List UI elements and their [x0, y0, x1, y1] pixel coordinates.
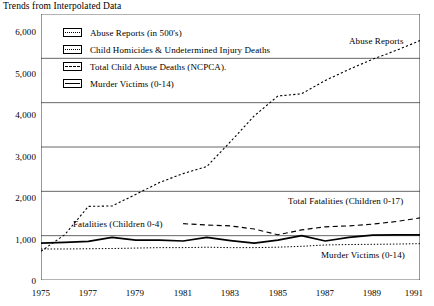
y-tick-label-3000: 3,000	[0, 152, 36, 162]
dotted-line-swatch-icon	[63, 45, 82, 54]
x-tick-label-1983: 1983	[210, 288, 250, 298]
y-tick-label-1000: 1,000	[0, 235, 36, 245]
x-tick-label-1979: 1979	[115, 288, 155, 298]
chart-title: Trends from Interpolated Data	[3, 0, 121, 12]
legend-label: Total Child Abuse Deaths (NCPCA).	[90, 62, 226, 72]
x-tick-label-1975: 1975	[21, 288, 61, 298]
x-tick-label-1987: 1987	[305, 288, 345, 298]
series-line-3	[41, 244, 420, 249]
solid-line-swatch-icon	[63, 79, 82, 88]
y-tick-label-5000: 5,000	[0, 69, 36, 79]
chart-page: Trends from Interpolated Data 6,000 5,00…	[0, 0, 434, 306]
y-tick-label-4000: 4,000	[0, 110, 36, 120]
y-tick-label-0: 0	[0, 276, 36, 286]
legend-item-child-homicides: Child Homicides & Undetermined Injury De…	[63, 41, 270, 58]
legend-item-murder-victims: Murder Victims (0-14)	[63, 75, 270, 92]
y-tick-label-6000: 6,000	[0, 27, 36, 37]
chart-legend: Abuse Reports (in 500's) Child Homicides…	[63, 24, 270, 92]
y-tick-label-2000: 2,000	[0, 193, 36, 203]
legend-label: Murder Victims (0-14)	[90, 79, 174, 89]
x-tick-label-1981: 1981	[163, 288, 203, 298]
x-tick-label-1985: 1985	[258, 288, 298, 298]
x-tick-label-1989: 1989	[352, 288, 392, 298]
dotted-line-swatch-icon	[63, 28, 82, 37]
legend-label: Child Homicides & Undetermined Injury De…	[90, 45, 270, 55]
annotation-abuse-reports: Abuse Reports	[349, 36, 404, 46]
series-line-1	[183, 218, 420, 235]
annotation-murder-victims: Murder Victims (0-14)	[321, 250, 405, 260]
annotation-total-fatalities: Total Fatalities (Children 0-17)	[288, 196, 403, 206]
x-tick-label-1977: 1977	[68, 288, 108, 298]
legend-label: Abuse Reports (in 500's)	[90, 28, 182, 38]
annotation-fatalities-0-4: Fatalities (Children 0-4)	[73, 219, 162, 229]
legend-item-total-child-abuse-deaths: Total Child Abuse Deaths (NCPCA).	[63, 58, 270, 75]
x-tick-label-1991: 1991	[394, 288, 434, 298]
dashed-line-swatch-icon	[63, 62, 82, 71]
legend-item-abuse-reports: Abuse Reports (in 500's)	[63, 24, 270, 41]
